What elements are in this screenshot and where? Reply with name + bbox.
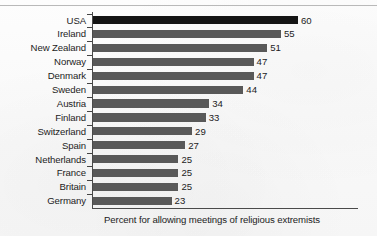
- chart-row: USA60: [0, 14, 377, 27]
- bar-finland: [93, 113, 206, 121]
- value-label-norway: 47: [257, 55, 268, 68]
- category-label-denmark: Denmark: [0, 69, 86, 82]
- category-label-new-zealand: New Zealand: [0, 41, 86, 54]
- chart-caption: Percent for allowing meetings of religio…: [104, 214, 320, 225]
- chart-row: Ireland55: [0, 27, 377, 40]
- value-label-netherlands: 25: [181, 153, 192, 166]
- chart-row: Denmark47: [0, 69, 377, 82]
- chart-row: Spain27: [0, 139, 377, 152]
- chart-row: Netherlands25: [0, 153, 377, 166]
- value-label-france: 25: [181, 166, 192, 179]
- value-label-germany: 23: [175, 194, 186, 207]
- bar-sweden: [93, 86, 243, 94]
- category-label-finland: Finland: [0, 111, 86, 124]
- category-label-usa: USA: [0, 14, 86, 27]
- category-label-norway: Norway: [0, 55, 86, 68]
- chart-row: Austria34: [0, 97, 377, 110]
- bar-switzerland: [93, 127, 192, 135]
- chart-row: New Zealand51: [0, 41, 377, 54]
- bar-denmark: [93, 72, 254, 80]
- value-label-ireland: 55: [284, 27, 295, 40]
- value-label-spain: 27: [188, 139, 199, 152]
- value-axis-baseline: [92, 208, 358, 209]
- category-label-sweden: Sweden: [0, 83, 86, 96]
- chart-row: France25: [0, 166, 377, 179]
- value-label-denmark: 47: [257, 69, 268, 82]
- bar-netherlands: [93, 155, 178, 163]
- category-axis-line: [92, 12, 93, 208]
- bar-usa: [93, 16, 298, 25]
- value-label-austria: 34: [212, 97, 223, 110]
- bar-new-zealand: [93, 44, 267, 52]
- category-label-netherlands: Netherlands: [0, 153, 86, 166]
- bar-france: [93, 169, 178, 177]
- chart-row: Germany23: [0, 194, 377, 207]
- category-label-britain: Britain: [0, 180, 86, 193]
- chart-row: Britain25: [0, 180, 377, 193]
- bar-ireland: [93, 30, 281, 38]
- value-label-switzerland: 29: [195, 125, 206, 138]
- bar-germany: [93, 197, 172, 205]
- value-label-finland: 33: [209, 111, 220, 124]
- category-label-austria: Austria: [0, 97, 86, 110]
- bar-austria: [93, 99, 209, 107]
- chart-row: Norway47: [0, 55, 377, 68]
- category-label-germany: Germany: [0, 194, 86, 207]
- bar-britain: [93, 183, 178, 191]
- category-label-france: France: [0, 166, 86, 179]
- bar-spain: [93, 141, 185, 149]
- chart-row: Switzerland29: [0, 125, 377, 138]
- value-label-sweden: 44: [246, 83, 257, 96]
- bar-chart: USA60Ireland55New Zealand51Norway47Denma…: [0, 0, 377, 236]
- value-label-britain: 25: [181, 180, 192, 193]
- value-label-usa: 60: [301, 14, 312, 27]
- category-label-spain: Spain: [0, 139, 86, 152]
- bar-norway: [93, 58, 254, 66]
- category-label-switzerland: Switzerland: [0, 125, 86, 138]
- category-label-ireland: Ireland: [0, 27, 86, 40]
- chart-row: Finland33: [0, 111, 377, 124]
- chart-row: Sweden44: [0, 83, 377, 96]
- value-label-new-zealand: 51: [270, 41, 281, 54]
